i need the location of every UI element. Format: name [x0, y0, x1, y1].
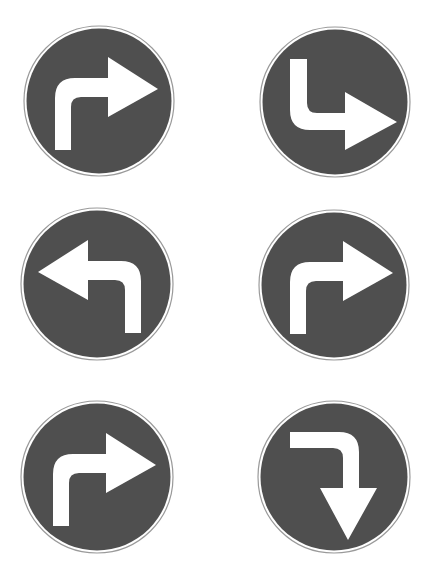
sign-turn-right	[21, 401, 173, 553]
sign-disc	[27, 29, 172, 174]
sign-disc	[261, 404, 408, 551]
sign-disc	[24, 211, 171, 358]
sign-disc	[262, 213, 407, 358]
sign-turn-right	[259, 210, 409, 360]
signs-canvas	[0, 0, 431, 587]
sign-turn-left	[21, 208, 173, 360]
sign-right-then-down	[258, 401, 410, 553]
sign-down-then-right	[260, 27, 410, 177]
sign-turn-right	[24, 26, 174, 176]
sign-disc	[24, 404, 171, 551]
sign-disc	[263, 30, 408, 175]
